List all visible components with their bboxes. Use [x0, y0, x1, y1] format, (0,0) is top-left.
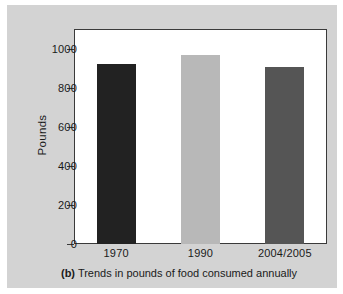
y-axis-tick-label: 800: [37, 82, 77, 94]
caption-text: Trends in pounds of food consumed annual…: [78, 267, 297, 279]
chart-screenshot: 02004006008001000 Pounds 197019902004/20…: [0, 0, 343, 294]
x-axis-tick-label: 1970: [104, 247, 129, 259]
figure-caption: (b) Trends in pounds of food consumed an…: [19, 267, 339, 279]
bar-1990: [181, 55, 220, 244]
bar-2004-2005: [265, 67, 304, 244]
bar-1970: [97, 64, 136, 244]
y-axis-title: Pounds: [36, 95, 48, 175]
y-axis-tick-label: 200: [37, 199, 77, 211]
y-axis-tick-label: 1000: [37, 43, 77, 55]
x-axis-tick-label: 2004/2005: [258, 247, 312, 259]
x-axis-tick-label: 1990: [188, 247, 213, 259]
caption-label: (b): [61, 267, 75, 279]
y-axis-tick-label: 0: [37, 238, 77, 250]
figure-panel: 02004006008001000 Pounds 197019902004/20…: [7, 5, 337, 288]
plot-area: [74, 29, 327, 244]
x-axis-tick-labels: 197019902004/2005: [74, 247, 327, 263]
